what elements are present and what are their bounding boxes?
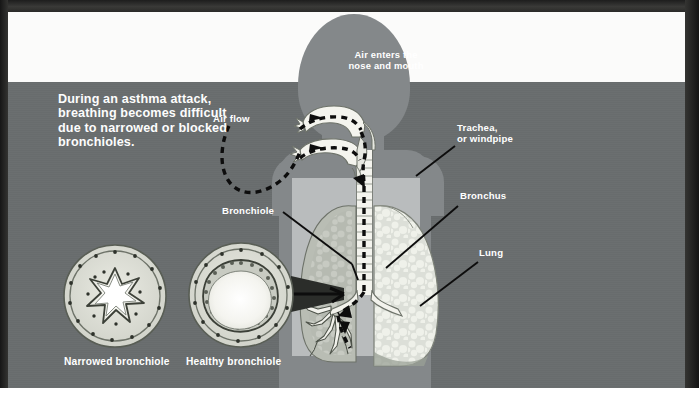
label-bronchiole: Bronchiole: [222, 205, 274, 216]
label-trachea: Trachea, or windpipe: [457, 122, 513, 144]
page-border-left: [0, 0, 8, 408]
page-border-bottom: [0, 388, 699, 408]
label-bronchus: Bronchus: [460, 190, 506, 201]
label-lung: Lung: [479, 247, 503, 258]
page-border-top: [0, 0, 699, 12]
intro-text: During an asthma attack, breathing becom…: [58, 92, 238, 150]
figure-frame: During an asthma attack, breathing becom…: [0, 0, 699, 408]
label-healthy-bronchiole: Healthy bronchiole: [186, 356, 281, 367]
label-air-enters: Air enters the nose and mouth: [330, 49, 442, 71]
label-air-flow: Air flow: [213, 113, 250, 124]
chest-cavity-plate: [292, 178, 420, 356]
page-border-right: [685, 0, 699, 408]
label-narrowed-bronchiole: Narrowed bronchiole: [64, 356, 170, 367]
